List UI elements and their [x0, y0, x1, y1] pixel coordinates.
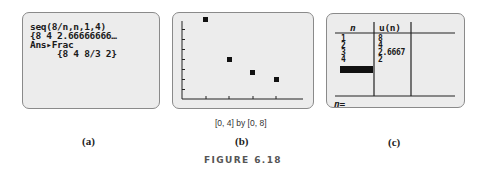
calculator-graph-screen [172, 12, 314, 109]
data-points [203, 17, 279, 82]
column-header-u: u(n) [379, 23, 401, 32]
calculator-table-screen: n u(n) 1 2 3 4 8 4 2.6667 2 n= [326, 13, 465, 108]
point-2 [227, 57, 232, 62]
table-cursor [340, 66, 373, 73]
viewing-window-label: [0, 4] by [0, 8] [215, 118, 267, 128]
point-1 [203, 17, 208, 22]
entry-line: n= [334, 99, 345, 108]
panel-b-label: (b) [235, 135, 248, 147]
row-4-u: 2 [378, 56, 383, 63]
column-header-n: n [350, 23, 355, 32]
panel-a-label: (a) [82, 135, 95, 147]
point-4 [274, 77, 279, 82]
calculator-home-screen: seq(8/n,n,1,4) {8 4 2.66666666… Ans▸Frac… [22, 12, 160, 109]
scatter-plot [173, 13, 315, 110]
panel-c-label: (c) [388, 136, 400, 148]
figure-caption: FIGURE 6.18 [0, 155, 486, 165]
screen-line-4: {8 4 8/3 2} [30, 49, 117, 58]
row-4-n: 4 [341, 56, 346, 63]
point-3 [250, 70, 255, 75]
